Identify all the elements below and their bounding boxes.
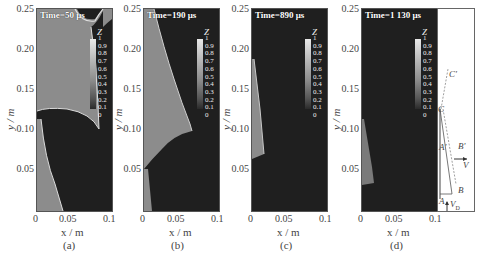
contour-plot-c: Time=890 μs Z 1 0.9 0.8 0.7 0.6 0.5 0.4 … — [251, 8, 328, 212]
panel-caption: (a) — [63, 239, 75, 251]
label-b: B — [458, 185, 464, 195]
x-tick: 0 — [33, 213, 38, 224]
x-tick: 0.05 — [385, 213, 403, 224]
panel-caption: (d) — [390, 239, 403, 251]
figure: 0.25 0.20 0.15 0.10 0.05 y / m Time=50 μ… — [0, 0, 477, 253]
x-tick: 0 — [140, 213, 145, 224]
label-vd: VD — [450, 199, 460, 211]
colorbar — [197, 39, 203, 109]
x-tick: 0.05 — [167, 213, 185, 224]
x-tick: 0.1 — [429, 213, 442, 224]
colorbar-labels: 1 0.9 0.8 0.7 0.6 0.5 0.4 0.3 0.2 0.1 0 — [98, 35, 107, 120]
label-c: C — [438, 104, 444, 114]
label-a-prime: A' — [439, 142, 446, 152]
x-axis-label: x / m — [387, 226, 410, 238]
y-axis-label: y / m — [220, 109, 232, 130]
schematic-panel: C' C A' B' V B A VD — [437, 8, 475, 212]
y-tick: 0.05 — [325, 163, 359, 174]
y-tick: 0.25 — [107, 3, 141, 14]
colorbar — [90, 39, 96, 109]
y-tick: 0.20 — [325, 43, 359, 54]
contour-plot-a: Time=50 μs Z 1 0.9 0.8 0.7 0.6 0.5 0.4 0… — [36, 8, 113, 212]
x-tick: 0.05 — [59, 213, 77, 224]
y-tick: 0.25 — [0, 3, 34, 14]
panel-caption: (b) — [171, 239, 184, 251]
y-tick: 0.05 — [107, 163, 141, 174]
colorbar-labels: 1 0.9 0.8 0.7 0.6 0.5 0.4 0.3 0.2 0.1 0 — [423, 35, 432, 120]
label-vd-sub: D — [456, 205, 460, 211]
x-tick: 0.05 — [275, 213, 293, 224]
x-axis-label: x / m — [169, 226, 192, 238]
y-tick: 0.25 — [215, 3, 249, 14]
label-b-prime: B' — [458, 141, 465, 151]
colorbar-labels: 1 0.9 0.8 0.7 0.6 0.5 0.4 0.3 0.2 0.1 0 — [313, 35, 322, 120]
y-tick: 0.05 — [215, 163, 249, 174]
y-axis-label: y / m — [330, 109, 342, 130]
time-label: Time=50 μs — [40, 10, 85, 20]
y-tick: 0.25 — [325, 3, 359, 14]
y-tick: 0.15 — [107, 83, 141, 94]
y-axis-label: y / m — [4, 109, 16, 130]
time-label: Time=890 μs — [255, 10, 304, 20]
label-c-prime: C' — [449, 69, 457, 79]
colorbar — [415, 39, 421, 109]
colorbar — [305, 39, 311, 109]
contour-plot-b: Time=190 μs Z 1 0.9 0.8 0.7 0.6 0.5 0.4 … — [143, 8, 220, 212]
y-tick: 0.20 — [215, 43, 249, 54]
x-tick: 0.1 — [103, 213, 116, 224]
y-tick: 0.15 — [0, 83, 34, 94]
y-axis-label: y / m — [112, 109, 124, 130]
panel-caption: (c) — [280, 239, 292, 251]
x-axis-label: x / m — [61, 226, 84, 238]
colorbar-labels: 1 0.9 0.8 0.7 0.6 0.5 0.4 0.3 0.2 0.1 0 — [205, 35, 214, 120]
y-tick: 0.20 — [0, 43, 34, 54]
y-tick: 0.20 — [107, 43, 141, 54]
x-tick: 0 — [248, 213, 253, 224]
time-label: Time=1 130 μs — [365, 10, 421, 20]
label-a: A — [439, 196, 445, 206]
x-tick: 0 — [358, 213, 363, 224]
y-tick: 0.05 — [0, 163, 34, 174]
label-v: V — [463, 160, 469, 170]
x-tick: 0.1 — [319, 213, 332, 224]
y-tick: 0.15 — [215, 83, 249, 94]
x-axis-label: x / m — [277, 226, 300, 238]
y-tick: 0.15 — [325, 83, 359, 94]
contour-plot-d: Time=1 130 μs Z 1 0.9 0.8 0.7 0.6 0.5 0.… — [361, 8, 438, 212]
x-tick: 0.1 — [211, 213, 224, 224]
time-label: Time=190 μs — [147, 10, 196, 20]
